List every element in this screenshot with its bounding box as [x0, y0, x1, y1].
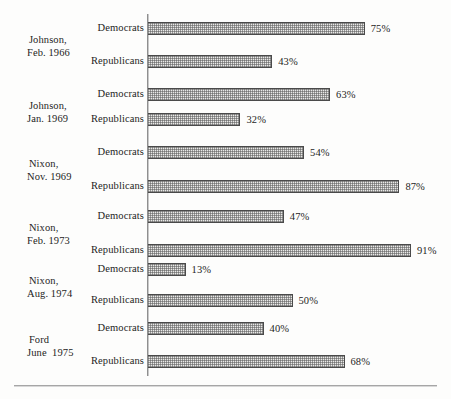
- bar-value-label: 75%: [371, 22, 391, 35]
- bar-value-label: 50%: [299, 294, 319, 307]
- group-label-line1: Nixon,: [29, 222, 58, 233]
- bar: [148, 294, 293, 307]
- bar: [148, 55, 272, 68]
- bar: [148, 322, 264, 335]
- party-label-democrats: Democrats: [24, 146, 144, 158]
- bar: [148, 210, 284, 223]
- party-label-republicans: Republicans: [24, 113, 144, 125]
- bar: [148, 113, 240, 126]
- bar-value-label: 91%: [417, 244, 437, 257]
- bar: [148, 22, 365, 35]
- group-label-line1: Johnson,: [29, 34, 67, 45]
- bar-value-label: 43%: [278, 55, 298, 68]
- bar-value-label: 40%: [270, 322, 290, 335]
- bar-chart: Johnson,Feb. 1966 Johnson,Jan. 1969 Nixo…: [0, 0, 451, 399]
- bar: [148, 263, 186, 276]
- bar-value-label: 13%: [192, 263, 212, 276]
- bar: [148, 180, 399, 193]
- party-label-democrats: Democrats: [24, 22, 144, 34]
- party-label-republicans: Republicans: [24, 244, 144, 256]
- party-label-democrats: Democrats: [24, 322, 144, 334]
- group-label-line1: Nixon,: [29, 275, 58, 286]
- bar-value-label: 47%: [290, 210, 310, 223]
- bar: [148, 88, 330, 101]
- party-label-republicans: Republicans: [24, 355, 144, 367]
- bar-value-label: 63%: [336, 88, 356, 101]
- group-label-line1: Ford: [29, 334, 49, 345]
- party-label-republicans: Republicans: [24, 180, 144, 192]
- party-label-republicans: Republicans: [24, 294, 144, 306]
- party-label-democrats: Democrats: [24, 210, 144, 222]
- party-label-democrats: Democrats: [24, 88, 144, 100]
- bar-value-label: 87%: [405, 180, 425, 193]
- group-label-line1: Johnson,: [29, 100, 67, 111]
- bar: [148, 146, 304, 159]
- group-label-line1: Nixon,: [29, 158, 58, 169]
- bar-value-label: 54%: [310, 146, 330, 159]
- bar-value-label: 32%: [246, 113, 266, 126]
- party-label-republicans: Republicans: [24, 55, 144, 67]
- party-label-democrats: Democrats: [24, 263, 144, 275]
- bar: [148, 355, 345, 368]
- bar-value-label: 68%: [351, 355, 371, 368]
- bottom-horizontal-rule: [14, 385, 437, 387]
- bar: [148, 244, 411, 257]
